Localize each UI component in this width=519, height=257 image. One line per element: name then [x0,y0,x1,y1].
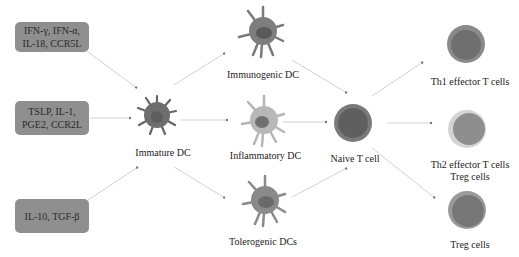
stimulus-box-il10: IL-10, TGF-β [15,199,89,233]
th1-cell-icon [445,23,487,65]
stimulus-box-tslp: TSLP, IL-1,PGE2, CCR2L [15,101,89,135]
stimulus-text: IL-10, TGF-β [25,210,80,223]
arrow-stim1-immature [88,52,137,88]
label-th2-cells: Th2 effector T cells [425,159,515,171]
immunogenic-dc-icon [233,3,289,59]
tolerogenic-dc-icon [237,172,293,228]
arrow-stim3-immature [88,167,138,200]
stimulus-text: IL-18, CCR5L [23,38,82,49]
arrow-tolerogenic-naive [292,168,347,197]
th2-cell-icon [446,108,488,150]
label-inflammatory-dc: Inflammatory DC [218,150,313,162]
label-immunogenic-dc: Immunogenic DC [218,69,308,81]
treg-cell-icon [446,189,488,231]
arrow-immature-tolerogenic [174,167,225,198]
label-immature-dc: Immature DC [128,147,198,159]
naive-t-cell-icon [332,102,374,144]
label-th1-cells: Th1 effector T cells [425,76,515,88]
stimulus-text: TSLP, IL-1, [28,106,76,117]
immature-dc-icon [135,93,179,137]
stimulus-text: PGE2, CCR2L [22,119,82,130]
stimulus-text: IFN-γ, IFN-α, [24,25,80,36]
stimulus-box-ifn: IFN-γ, IFN-α,IL-18, CCR5L [15,22,89,52]
label-naive-t-cell: Naive T cell [325,153,385,165]
label-treg-cells: Treg cells [425,239,515,251]
arrow-naive-th1 [372,62,423,96]
label-th2-treg-cells: Treg cells [425,171,515,183]
inflammatory-dc-icon [236,92,292,148]
label-tolerogenic-dc: Tolerogenic DCs [218,236,308,248]
